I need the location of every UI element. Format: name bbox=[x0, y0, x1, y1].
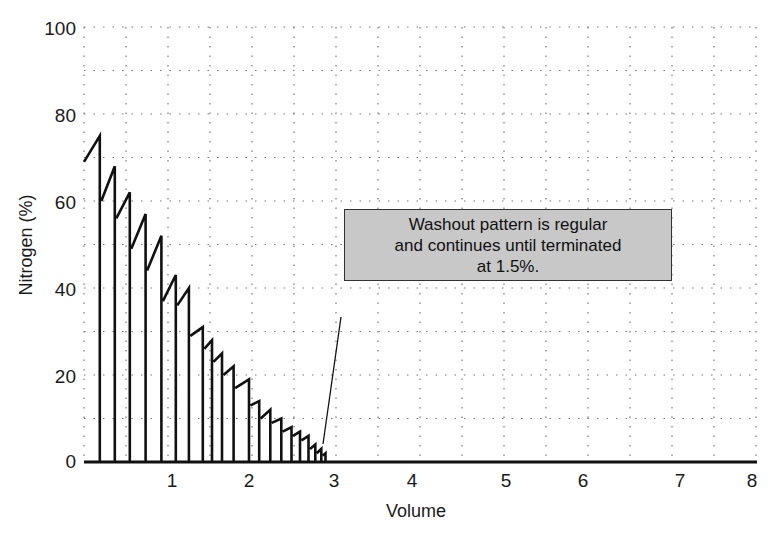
y-axis-label: Nitrogen (%) bbox=[16, 194, 36, 295]
annotation-line-1: Washout pattern is regular bbox=[345, 214, 671, 235]
y-tick-0: 0 bbox=[65, 451, 76, 472]
annotation-line-3: at 1.5%. bbox=[345, 256, 671, 277]
x-axis-label: Volume bbox=[386, 501, 446, 521]
x-tick-4: 4 bbox=[407, 470, 418, 491]
washout-trace bbox=[84, 136, 326, 462]
y-tick-40: 40 bbox=[55, 279, 76, 300]
x-tick-7: 7 bbox=[675, 470, 686, 491]
annotation-line-2: and continues until terminated bbox=[345, 235, 671, 256]
annotation-box: Washout pattern is regular and continues… bbox=[344, 209, 672, 281]
y-tick-60: 60 bbox=[55, 192, 76, 213]
annotation-pointer bbox=[323, 317, 341, 444]
x-tick-3: 3 bbox=[329, 470, 340, 491]
y-axis: 100 80 60 40 20 0 Nitrogen (%) bbox=[16, 18, 76, 472]
x-tick-1: 1 bbox=[167, 470, 178, 491]
x-tick-8: 8 bbox=[747, 470, 758, 491]
x-tick-6: 6 bbox=[578, 470, 589, 491]
x-tick-2: 2 bbox=[244, 470, 255, 491]
y-tick-100: 100 bbox=[44, 18, 76, 39]
y-tick-80: 80 bbox=[55, 105, 76, 126]
x-axis: 1 2 3 4 5 6 7 8 Volume bbox=[167, 470, 758, 521]
y-tick-20: 20 bbox=[55, 366, 76, 387]
x-tick-5: 5 bbox=[501, 470, 512, 491]
